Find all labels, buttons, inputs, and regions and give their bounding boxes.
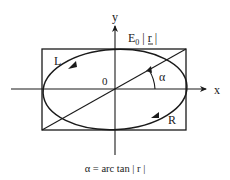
polarization-diagram: y x 0 E0 | r | L R α α = arc tan | r | (0, 0, 230, 180)
caption: α = arc tan | r | (85, 163, 146, 174)
amplitude-label: E0 | r | (128, 31, 157, 47)
rotation-arrow-left-icon (68, 61, 77, 69)
right-rotation-label: R (168, 113, 176, 127)
alpha-arc-arrow-icon (146, 66, 152, 73)
origin-label: 0 (102, 75, 108, 87)
y-axis-label: y (112, 10, 118, 24)
alpha-label: α (159, 70, 166, 84)
alpha-angle-arc (149, 70, 155, 89)
rotation-arrow-right-icon (151, 112, 159, 118)
left-rotation-label: L (54, 54, 61, 68)
x-axis-label: x (214, 83, 220, 97)
